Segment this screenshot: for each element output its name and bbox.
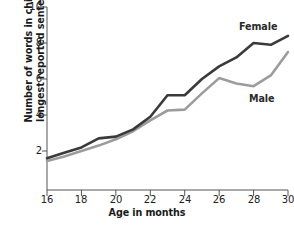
y-axis-ticks xyxy=(42,7,47,151)
series-label-male: Male xyxy=(249,93,274,104)
x-axis-title: Age in months xyxy=(0,207,294,218)
series-line-male xyxy=(47,52,288,161)
plot-area xyxy=(0,0,294,227)
line-chart: Number of words in child's longest repor… xyxy=(0,0,294,227)
x-axis-ticks xyxy=(47,190,288,196)
series-label-female: Female xyxy=(239,21,277,32)
